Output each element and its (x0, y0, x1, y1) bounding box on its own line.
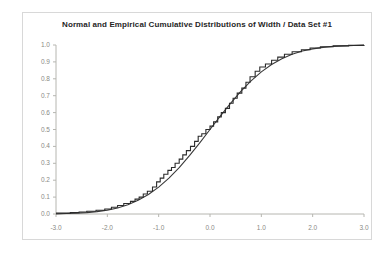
y-axis-tick-label: 1.0 (23, 41, 50, 48)
y-axis-tick-label: 0.6 (23, 109, 50, 116)
y-axis-tick-label: 0.8 (23, 75, 50, 82)
chart-container: Normal and Empirical Cumulative Distribu… (22, 12, 372, 240)
x-axis-tick-label: 2.0 (298, 224, 328, 231)
plot-area (23, 13, 373, 241)
y-axis-tick-label: 0.0 (23, 210, 50, 217)
x-axis-tick-label: -2.0 (92, 224, 122, 231)
y-axis-tick-label: 0.7 (23, 92, 50, 99)
empirical-cdf-step-curve (56, 45, 364, 213)
y-axis-tick-label: 0.2 (23, 176, 50, 183)
data-series (56, 45, 364, 214)
y-axis-tick-label: 0.9 (23, 58, 50, 65)
x-axis-tick-label: 0.0 (195, 224, 225, 231)
y-axis-tick-label: 0.3 (23, 159, 50, 166)
x-axis-tick-label: 1.0 (246, 224, 276, 231)
x-axis-tick-label: 3.0 (349, 224, 379, 231)
y-axis-tick-label: 0.4 (23, 142, 50, 149)
x-axis-tick-label: -3.0 (41, 224, 71, 231)
y-axis-tick-label: 0.5 (23, 126, 50, 133)
y-axis-tick-label: 0.1 (23, 193, 50, 200)
x-axis-tick-label: -1.0 (144, 224, 174, 231)
